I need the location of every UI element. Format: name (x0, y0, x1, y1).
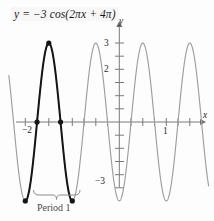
y-tick-label-neg3: −3 (95, 176, 105, 186)
x-tick-label-neg2: −2 (22, 125, 32, 135)
y-axis (115, 26, 124, 188)
period-annotation-label: Period 1 (37, 202, 71, 213)
period-brace (34, 190, 81, 200)
marked-point-maximum (46, 41, 51, 46)
x-tick-label-one: 1 (163, 126, 168, 136)
plot-area (0, 0, 214, 221)
y-tick-label-3: 3 (104, 38, 109, 48)
marked-point-minimum (23, 198, 28, 203)
x-axis (16, 118, 201, 126)
y-tick-label-2: 2 (104, 64, 109, 74)
y-axis-label: y (119, 16, 123, 26)
marked-point-zero-crossing (34, 119, 39, 124)
figure-container: y = −3 cos(2πx + 4π) (0, 0, 214, 221)
x-axis-label: x (203, 110, 207, 120)
marked-point-zero-crossing (58, 119, 63, 124)
